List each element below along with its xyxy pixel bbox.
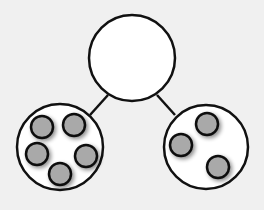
whole-circle	[89, 15, 175, 101]
counter-dot	[49, 163, 71, 185]
right-part	[164, 105, 248, 189]
part-circles	[17, 104, 248, 190]
number-bond-diagram	[0, 0, 264, 210]
connector-line	[90, 95, 108, 115]
counter-dot	[196, 113, 218, 135]
counter-dot	[207, 156, 229, 178]
counter-dot	[75, 145, 97, 167]
counter-dot	[26, 143, 48, 165]
counter-dot	[170, 134, 192, 156]
counter-dot	[63, 114, 85, 136]
connector-line	[157, 95, 175, 115]
left-part	[17, 104, 103, 190]
counter-dot	[31, 116, 53, 138]
whole-circle	[89, 15, 175, 101]
